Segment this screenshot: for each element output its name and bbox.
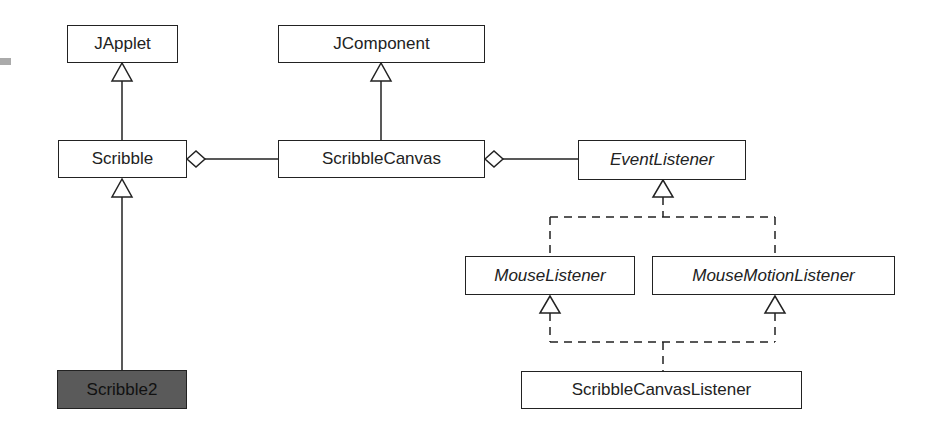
interface-mouselistener[interactable]: MouseListener [465, 256, 635, 295]
class-label: JApplet [94, 34, 151, 54]
class-label: JComponent [333, 34, 429, 54]
class-label: Scribble [92, 149, 153, 169]
aggregation-diamond-icon [187, 151, 205, 167]
class-japplet[interactable]: JApplet [67, 25, 178, 63]
connector-layer [0, 0, 938, 431]
generalization-arrow-icon [112, 179, 132, 197]
class-scribble[interactable]: Scribble [58, 140, 187, 178]
margin-marker [0, 58, 11, 65]
realization-arrow-icon [653, 180, 673, 197]
generalization-arrow-icon [371, 63, 391, 81]
realization-arrow-icon [765, 296, 785, 313]
generalization-arrow-icon [112, 63, 132, 81]
realization-arrow-icon [540, 296, 560, 313]
class-label: EventListener [610, 150, 714, 170]
class-label: ScribbleCanvasListener [572, 380, 752, 400]
class-label: ScribbleCanvas [322, 149, 441, 169]
class-scribble2[interactable]: Scribble2 [57, 370, 187, 409]
interface-mousemotionlistener[interactable]: MouseMotionListener [652, 256, 895, 295]
interface-eventlistener[interactable]: EventListener [578, 140, 746, 180]
class-scribblecanvaslistener[interactable]: ScribbleCanvasListener [521, 371, 802, 409]
class-label: MouseMotionListener [692, 266, 855, 286]
class-label: Scribble2 [87, 380, 158, 400]
class-scribblecanvas[interactable]: ScribbleCanvas [278, 140, 485, 178]
class-jcomponent[interactable]: JComponent [278, 25, 485, 63]
aggregation-diamond-icon [485, 151, 503, 167]
class-label: MouseListener [494, 266, 606, 286]
